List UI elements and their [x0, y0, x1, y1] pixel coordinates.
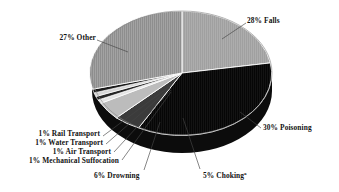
label-air-transport: 1% Air Transport — [0, 147, 111, 156]
pie-slices — [89, 11, 271, 136]
label-mechanical-suffocation: 1% Mechanical Suffocation — [0, 156, 119, 165]
label-other: 27% Other — [44, 33, 96, 42]
label-poisoning: 30% Poisoning — [263, 123, 312, 132]
label-rail-transport: 1% Rail Transport — [0, 129, 100, 138]
label-falls: 28% Falls — [247, 16, 280, 25]
pie-chart-figure: 28% Falls 27% Other 30% Poisoning 5% Cho… — [0, 0, 339, 192]
label-choking-text: 5% Choking — [203, 171, 244, 180]
label-drowning: 6% Drowning — [94, 171, 140, 180]
label-choking: 5% Chokinga — [203, 169, 247, 180]
label-choking-footnote-marker: a — [244, 171, 247, 176]
label-water-transport: 1% Water Transport — [0, 138, 103, 147]
